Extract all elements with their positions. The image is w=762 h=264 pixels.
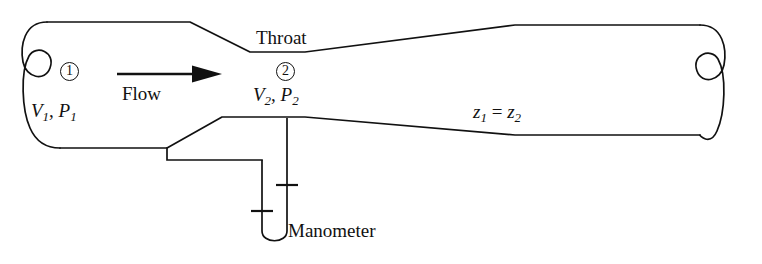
right-break-symbol-icon [696, 25, 725, 139]
station-2-separator: , [271, 84, 281, 105]
manometer-label: Manometer [288, 221, 376, 240]
pressure-tap-line [167, 148, 262, 160]
manometer-u-tube [262, 118, 287, 241]
p1-subscript: 1 [70, 109, 77, 124]
p2-subscript: 2 [292, 93, 299, 108]
pipe-top-wall [47, 22, 700, 52]
equals-sign: = [487, 101, 507, 122]
left-break-symbol-icon [22, 22, 60, 148]
station-1-marker: 1 [60, 62, 79, 81]
station-1-variables-label: V1, P1 [31, 101, 77, 123]
v1-symbol: V [31, 100, 43, 121]
flow-arrow-icon [117, 66, 222, 83]
z2-subscript: 2 [515, 110, 522, 125]
venturi-meter-figure: 1 2 Throat Flow Manometer V1, P1 V2, P2 … [0, 0, 762, 264]
pipe-bottom-wall [60, 117, 700, 148]
station-2-variables-label: V2, P2 [253, 85, 299, 107]
throat-label: Throat [256, 28, 307, 47]
station-1-separator: , [49, 100, 59, 121]
flow-label: Flow [122, 84, 161, 103]
manometer-bottom-bend [262, 231, 287, 241]
elevation-equality-label: z1 = z2 [473, 102, 521, 124]
station-2-marker: 2 [276, 62, 295, 81]
manometer-fluid-levels [251, 185, 298, 211]
venturi-diagram-canvas [0, 0, 762, 264]
p1-symbol: P [59, 100, 71, 121]
z2-symbol: z [507, 101, 514, 122]
p2-symbol: P [281, 84, 293, 105]
v2-symbol: V [253, 84, 265, 105]
